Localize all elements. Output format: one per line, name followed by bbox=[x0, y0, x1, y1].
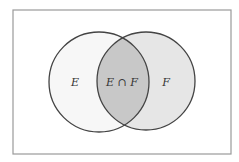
label-intersection: E ∩ F bbox=[105, 76, 138, 89]
label-f-only: F bbox=[161, 76, 170, 89]
venn-diagram: E E ∩ F F bbox=[0, 0, 239, 162]
label-e-only: E bbox=[70, 76, 79, 89]
